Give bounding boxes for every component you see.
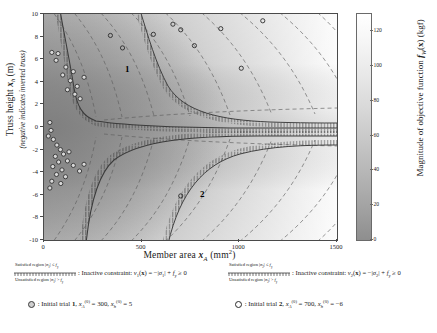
constraint-legend-hatch-stack-v2: Satisfied region |σ2| ≤ fy Unsatisfied r…	[228, 262, 290, 284]
figure-root: 1 2 050010001500 1086420-2-4-6-8-10 Memb…	[0, 0, 437, 333]
colorbar-tick-label: 20	[374, 201, 380, 207]
y-tickmark	[40, 239, 43, 240]
satisfied-region-label-v1: Satisfied region |σ1| ≤ fy	[15, 262, 58, 269]
colorbar-tick-label: 40	[374, 166, 380, 172]
colorbar-tick-label: 100	[374, 62, 382, 68]
y-tickmark	[40, 216, 43, 217]
data-point	[261, 19, 265, 23]
data-point	[108, 33, 112, 37]
trial-legend-text-1: : Initial trial 1, xA(0) = 300, xh(0) = …	[38, 300, 132, 307]
data-point	[59, 181, 63, 185]
y-tickmark	[40, 194, 43, 195]
constraint-legend-item-v1: Satisfied region |σ1| ≤ fy Unsatisfied r…	[14, 262, 76, 284]
data-point	[48, 186, 52, 190]
y-axis-label: Truss height xh (m) (negative indicates …	[5, 0, 28, 199]
y-tickmark	[40, 149, 43, 150]
x-axis-label-text: Member area xA (mm2)	[143, 250, 235, 260]
colorbar-label-text: Magnitude of objective function fW(x) (k…	[415, 0, 427, 218]
constraint-legend-item-v2: Satisfied region |σ2| ≤ fy Unsatisfied r…	[228, 262, 290, 284]
constraint-legend-text-v1: : Inactive constraint: v1(x) = −|σ1| + f…	[78, 269, 187, 278]
colorbar-tickmark	[370, 135, 373, 136]
data-point	[68, 79, 72, 83]
trial2-points	[108, 19, 265, 198]
colorbar-tick-label: 80	[374, 97, 380, 103]
y-tick-label: -10	[21, 236, 38, 243]
data-point	[48, 120, 52, 124]
trial1-points	[46, 50, 86, 190]
data-point	[78, 97, 82, 101]
data-point	[239, 66, 243, 70]
y-tick-label: -8	[21, 213, 38, 220]
data-point	[120, 46, 124, 50]
data-point	[151, 32, 155, 36]
y-tickmark	[40, 81, 43, 82]
x-tickmark	[238, 239, 239, 242]
data-point	[50, 50, 54, 54]
constraint-legend-text-v2: : Inactive constraint: v2(x) = −|σ2| + f…	[292, 269, 401, 278]
data-point	[46, 134, 50, 138]
data-point	[64, 65, 68, 69]
data-point	[65, 88, 69, 92]
data-point	[61, 73, 65, 77]
data-point	[179, 194, 183, 198]
data-point	[192, 44, 196, 48]
colorbar-tickmark	[370, 100, 373, 101]
y-tickmark	[40, 58, 43, 59]
data-point	[56, 51, 60, 55]
data-point	[51, 164, 55, 168]
x-tickmark	[336, 239, 337, 242]
y-axis-label-note: (negative indicates inverted truss)	[18, 0, 27, 199]
colorbar-tickmark	[370, 65, 373, 66]
data-point	[54, 172, 58, 176]
filled-circle-icon	[26, 301, 36, 308]
data-point	[82, 75, 86, 79]
x-tickmark	[141, 239, 142, 242]
x-axis-label: Member area xA (mm2)	[43, 248, 336, 262]
trial-legend-text-2: : Initial trial 2, xA(0) = 700, xh(0) = …	[245, 300, 343, 307]
data-point	[71, 163, 75, 167]
data-point	[55, 143, 59, 147]
colorbar-tick-label: 0	[374, 236, 377, 242]
data-point	[51, 137, 55, 141]
hatch-sample-icon-v2	[228, 270, 290, 276]
data-point	[57, 160, 61, 164]
colorbar-tickmark	[370, 204, 373, 205]
data-point	[75, 84, 79, 88]
data-point	[58, 148, 62, 152]
data-point	[50, 179, 54, 183]
colorbar-tickmark	[370, 239, 373, 240]
data-point	[54, 58, 58, 62]
search-path-markers	[44, 14, 337, 240]
data-point	[65, 159, 69, 163]
y-axis-label-text: Truss height xh (m)	[5, 0, 19, 199]
unsatisfied-region-label-v2: Unsatisfied region |σ2| > fy	[229, 277, 277, 284]
plot-area: 1 2	[43, 13, 338, 241]
colorbar-label: Magnitude of objective function fW(x) (k…	[415, 0, 427, 218]
y-tickmark	[40, 171, 43, 172]
data-point	[60, 168, 64, 172]
data-point	[73, 92, 77, 96]
annotation-1: 1	[125, 64, 130, 74]
y-tickmark	[40, 103, 43, 104]
data-point	[82, 162, 86, 166]
data-point	[49, 128, 53, 132]
x-tickmark	[43, 239, 44, 242]
y-tickmark	[40, 36, 43, 37]
data-point	[63, 175, 67, 179]
hatch-sample-icon-v1	[14, 270, 76, 276]
data-point	[71, 70, 75, 74]
data-point	[171, 22, 175, 26]
data-point	[179, 28, 183, 32]
colorbar-tickmark	[370, 169, 373, 170]
colorbar-tickmark	[370, 30, 373, 31]
data-point	[67, 150, 71, 154]
trial-legend-item-1: : Initial trial 1, xA(0) = 300, xh(0) = …	[26, 299, 132, 310]
constraint-legend-hatch-stack-v1: Satisfied region |σ1| ≤ fy Unsatisfied r…	[14, 262, 76, 284]
y-tickmark	[40, 13, 43, 14]
constraint-legend: Satisfied region |σ1| ≤ fy Unsatisfied r…	[0, 262, 437, 288]
open-circle-icon	[233, 301, 243, 308]
y-tickmark	[40, 126, 43, 127]
colorbar-tick-label: 120	[374, 27, 382, 33]
unsatisfied-region-label-v1: Unsatisfied region |σ1| > fy	[15, 277, 63, 284]
data-point	[53, 154, 57, 158]
